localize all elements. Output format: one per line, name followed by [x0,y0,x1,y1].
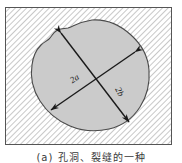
inclusion-diagram: 2a 2b [0,0,182,163]
figure-container: 2a 2b (a) 孔洞、裂缝的一种 [0,0,182,163]
figure-caption: (a) 孔洞、裂缝的一种 [0,150,182,163]
